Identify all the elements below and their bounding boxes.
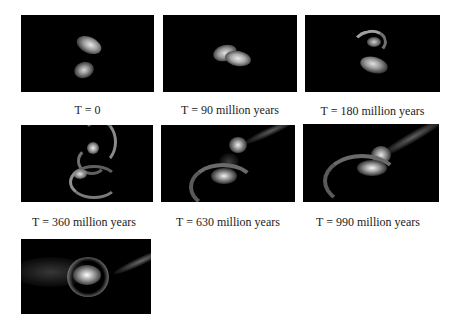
galaxy-upper	[229, 137, 247, 153]
galaxy-upper	[74, 32, 104, 57]
simulation-panel-t630	[161, 125, 295, 202]
simulation-panel-t360	[21, 125, 153, 202]
tidal-tail	[242, 125, 295, 147]
galaxy-lower	[358, 54, 389, 77]
simulation-panel-t180	[305, 15, 440, 92]
caption-t990: T = 990 million years	[300, 215, 436, 230]
caption-t0: T = 0	[21, 103, 154, 118]
caption-t180: T = 180 million years	[305, 104, 440, 119]
caption-t630: T = 630 million years	[161, 215, 295, 230]
tidal-tail-right	[112, 245, 151, 278]
simulation-panel-t990	[303, 124, 439, 202]
merged-galaxy-core	[73, 265, 101, 285]
simulation-panel-t0	[21, 15, 154, 92]
caption-t360: T = 360 million years	[18, 215, 150, 230]
galaxy-upper	[367, 37, 381, 47]
galaxy-lower	[357, 160, 387, 176]
galaxy-lower	[211, 168, 237, 184]
simulation-panel-t90	[163, 15, 297, 92]
caption-t90: T = 90 million years	[163, 103, 297, 118]
galaxy-right	[224, 49, 252, 68]
galaxy-lower	[72, 59, 96, 81]
galaxy-lower	[73, 169, 87, 179]
simulation-panel-final	[21, 239, 151, 314]
